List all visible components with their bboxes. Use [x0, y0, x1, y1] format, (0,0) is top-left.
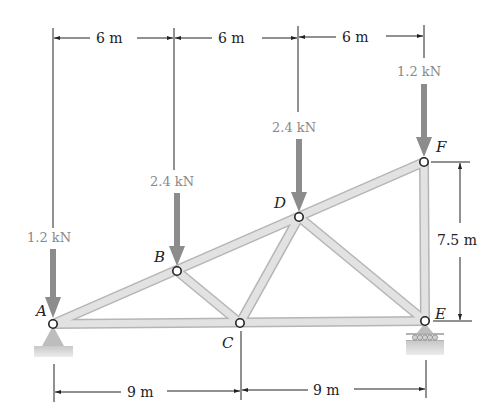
node-A: [49, 320, 57, 328]
load-label-F: 1.2 kN: [397, 64, 441, 79]
load-arrow-D: [291, 139, 307, 212]
node-label-C: C: [222, 334, 234, 352]
load-label-B: 2.4 kN: [150, 174, 194, 189]
truss-members: [53, 162, 425, 324]
top-chord: [53, 162, 424, 324]
bottom-dimensions: [55, 389, 425, 392]
top-dimension-label-3: 6 m: [342, 29, 369, 45]
top-dimension-label-1: 6 m: [96, 30, 123, 46]
node-label-D: D: [273, 194, 286, 212]
node-C: [236, 319, 244, 327]
load-label-A: 1.2 kN: [27, 230, 71, 245]
top-dimension-label-2: 6 m: [218, 30, 245, 46]
load-label-D: 2.4 kN: [272, 120, 316, 135]
node-F: [420, 158, 428, 166]
load-arrow-F: [416, 84, 432, 157]
node-B: [173, 267, 181, 275]
node-E: [421, 317, 429, 325]
node-label-F: F: [435, 138, 447, 156]
node-D: [295, 213, 303, 221]
truss-diagram: 6 m 6 m 6 m: [0, 0, 504, 418]
node-label-E: E: [434, 305, 446, 323]
load-arrow-B: [169, 193, 185, 266]
pin-support-A: [34, 326, 73, 357]
member-DE: [299, 217, 425, 321]
roller-support-E: [406, 323, 444, 355]
right-dimension-label: 7.5 m: [437, 232, 477, 248]
member-EF: [424, 162, 425, 321]
node-label-B: B: [153, 248, 165, 266]
member-BC: [177, 271, 240, 323]
bottom-dimension-label-2: 9 m: [313, 382, 340, 398]
node-label-A: A: [34, 302, 47, 320]
bottom-dimension-label-1: 9 m: [127, 384, 154, 400]
load-arrow-A: [45, 249, 61, 318]
top-extension-lines: [53, 25, 424, 228]
